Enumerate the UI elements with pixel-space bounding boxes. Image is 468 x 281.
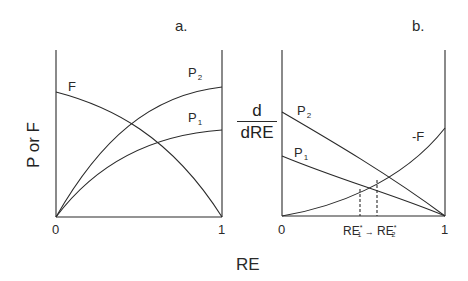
panel-b-label-P1-base: P: [294, 145, 303, 160]
panel-a-tick-0: 0: [52, 223, 59, 236]
re-markers: RE*1 → RE*2: [343, 224, 395, 238]
marker-RE1-sup: *: [360, 224, 363, 231]
panel-b-label-P2-sub: 2: [307, 111, 311, 120]
panel-b-curve-P1: [282, 156, 445, 216]
panel-b-label-negF: -F: [412, 130, 424, 143]
panel-a-label-P2-sub: 2: [198, 73, 202, 82]
panel-a-tick-1: 1: [218, 223, 225, 236]
diagram-canvas: [0, 0, 468, 281]
panel-a-label-F: F: [68, 80, 76, 93]
panel-a-letter: a.: [175, 18, 188, 33]
panel-b-curve-P2: [282, 112, 445, 216]
panel-b-y-axis-title: d dRE: [237, 102, 277, 142]
panel-a-y-axis-title: P or F: [24, 122, 44, 168]
panel-a-label-P2: P2: [188, 66, 202, 82]
panel-b-label-P1: P1: [294, 146, 308, 162]
panel-b-label-P2-base: P: [297, 103, 306, 118]
panel-b-letter: b.: [412, 18, 425, 33]
panel-b-y-axis-numerator: d: [237, 102, 277, 120]
marker-RE2-sub: 2: [391, 231, 395, 238]
panel-b-tick-1: 1: [441, 223, 448, 236]
panel-b-label-P1-sub: 1: [304, 153, 308, 162]
panel-b-tick-0: 0: [278, 223, 285, 236]
marker-RE2: RE*2: [377, 224, 395, 238]
panel-a-label-P1-base: P: [188, 110, 197, 125]
panel-a-curve-P2: [56, 87, 222, 217]
panel-a-label-P1: P1: [188, 111, 202, 127]
marker-RE1: RE*1: [343, 224, 361, 238]
marker-RE1-sub: 1: [357, 231, 361, 238]
arrow-right-icon: →: [365, 227, 374, 237]
panel-a-label-P1-sub: 1: [198, 118, 202, 127]
panel-b-label-P2: P2: [297, 104, 311, 120]
panel-b-y-axis-denominator: dRE: [237, 124, 277, 142]
x-axis-title: RE: [236, 256, 260, 273]
marker-RE2-sup: *: [394, 224, 397, 231]
fraction-bar: [237, 121, 277, 122]
panel-a-curve-P1: [56, 130, 222, 217]
panel-a-label-P2-base: P: [188, 65, 197, 80]
